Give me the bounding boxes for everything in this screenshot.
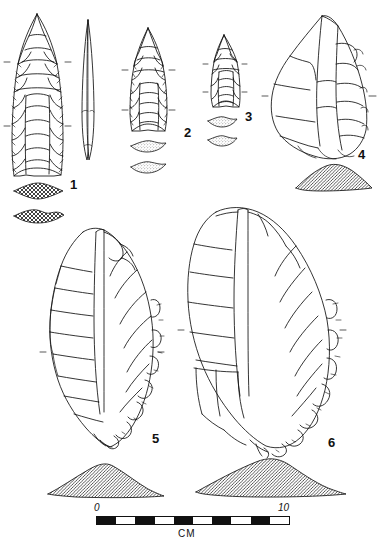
scale-unit-label: CM bbox=[178, 529, 196, 539]
scale-segment bbox=[270, 517, 289, 524]
scale-segment bbox=[212, 517, 231, 524]
figure-4-drawing bbox=[262, 16, 376, 191]
figure-label-2: 2 bbox=[184, 126, 191, 139]
scale-segment bbox=[231, 517, 250, 524]
figure-2-drawing bbox=[122, 28, 175, 173]
figure-1-drawing bbox=[4, 14, 71, 223]
artifact-plate: 1 2 3 4 5 6 0 10 CM bbox=[0, 0, 382, 543]
scale-end-label: 10 bbox=[278, 503, 289, 513]
scale-segment bbox=[174, 517, 193, 524]
scale-bar bbox=[96, 516, 290, 525]
figure-label-1: 1 bbox=[70, 178, 77, 191]
scale-segment bbox=[135, 517, 154, 524]
scale-segment bbox=[97, 517, 116, 524]
figure-label-6: 6 bbox=[328, 436, 335, 449]
figure-1-edge-view bbox=[82, 20, 94, 160]
figure-label-5: 5 bbox=[152, 432, 159, 445]
figure-5-drawing bbox=[40, 228, 164, 497]
scale-segment bbox=[193, 517, 212, 524]
plate-drawing bbox=[0, 0, 382, 543]
scale-segment bbox=[155, 517, 174, 524]
scale-segment bbox=[116, 517, 135, 524]
scale-segment bbox=[251, 517, 270, 524]
figure-label-3: 3 bbox=[245, 110, 252, 123]
scale-start-label: 0 bbox=[94, 503, 100, 513]
figure-6-drawing bbox=[178, 208, 346, 498]
figure-label-4: 4 bbox=[358, 148, 365, 161]
figure-3-drawing bbox=[203, 35, 247, 146]
